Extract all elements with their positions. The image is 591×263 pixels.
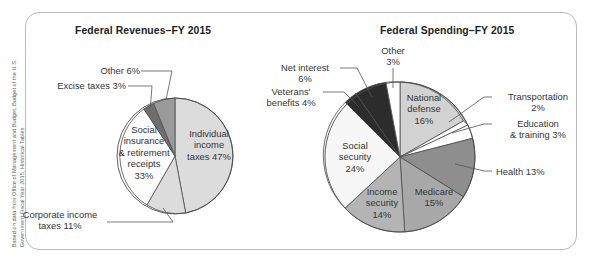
- label-revenues-individual-line-2: income: [178, 139, 240, 150]
- label-spending-net-interest-line-1: Net interest: [269, 62, 341, 73]
- label-spending-social-line-1: Social: [327, 140, 383, 151]
- label-spending-health-text: Health 13%: [496, 166, 544, 177]
- label-revenues-other: Other 6%: [44, 65, 140, 76]
- label-spending-other-line-1: Other: [370, 45, 416, 56]
- label-spending-defense-line-2: defense: [395, 103, 453, 114]
- leader-excise-3: [128, 86, 152, 106]
- label-spending-other-line-2: 3%: [370, 56, 416, 67]
- label-spending-education-training: Education & training 3%: [494, 118, 582, 141]
- label-spending-medicare-line-2: 15%: [406, 197, 462, 208]
- label-revenues-corporate-income-taxes: Corporate income taxes 11%: [12, 209, 108, 232]
- label-revenues-excise-taxes: Excise taxes 3%: [22, 80, 126, 91]
- label-spending-transportation-line-2: 2%: [494, 102, 582, 113]
- label-spending-income-security-line-3: 14%: [358, 209, 406, 220]
- label-spending-other: Other 3%: [370, 45, 416, 68]
- leader-other-6: [141, 71, 172, 100]
- label-spending-medicare-line-1: Medicare: [406, 186, 462, 197]
- label-revenues-individual-income-taxes: Individual income taxes 47%: [178, 128, 240, 162]
- label-revenues-other-text: Other 6%: [100, 65, 140, 76]
- label-spending-income-security-line-2: security: [358, 197, 406, 208]
- label-spending-income-security-line-1: Income: [358, 186, 406, 197]
- label-spending-social-line-3: 24%: [327, 163, 383, 174]
- label-spending-education-line-2: & training 3%: [494, 129, 582, 140]
- label-revenues-excise-taxes-text: Excise taxes 3%: [57, 80, 126, 91]
- label-revenues-social-line-4: receipts: [108, 158, 180, 169]
- label-spending-defense-line-3: 16%: [395, 115, 453, 126]
- label-spending-veterans-benefits: Veterans' benefits 4%: [258, 86, 324, 109]
- label-revenues-corporate-line-1: Corporate income: [12, 209, 108, 220]
- label-spending-veterans-line-1: Veterans': [258, 86, 324, 97]
- label-revenues-individual-line-3: taxes 47%: [178, 151, 240, 162]
- figure-root: Based on data from Office of Management …: [0, 0, 591, 263]
- label-spending-social-security: Social security 24%: [327, 140, 383, 174]
- label-revenues-social-insurance: Social insurance & retirement receipts 3…: [108, 124, 180, 181]
- label-spending-income-security: Income security 14%: [358, 186, 406, 220]
- label-spending-transportation-line-1: Transportation: [494, 91, 582, 102]
- label-revenues-social-line-5: 33%: [108, 170, 180, 181]
- label-revenues-individual-line-1: Individual: [178, 128, 240, 139]
- label-revenues-social-line-1: Social: [108, 124, 180, 135]
- label-spending-medicare: Medicare 15%: [406, 186, 462, 209]
- label-spending-health: Health 13%: [496, 166, 580, 177]
- label-revenues-social-line-3: & retirement: [108, 147, 180, 158]
- label-revenues-corporate-line-2: taxes 11%: [12, 220, 108, 231]
- label-spending-education-line-1: Education: [494, 118, 582, 129]
- label-spending-defense-line-1: National: [395, 92, 453, 103]
- label-spending-social-line-2: security: [327, 151, 383, 162]
- label-spending-national-defense: National defense 16%: [395, 92, 453, 126]
- label-spending-net-interest-line-2: 6%: [269, 73, 341, 84]
- label-spending-transportation: Transportation 2%: [494, 91, 582, 114]
- label-spending-veterans-line-2: benefits 4%: [258, 97, 324, 108]
- label-revenues-social-line-2: insurance: [108, 135, 180, 146]
- label-spending-net-interest: Net interest 6%: [269, 62, 341, 85]
